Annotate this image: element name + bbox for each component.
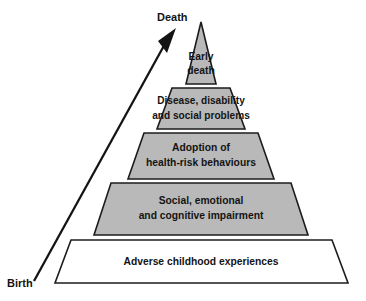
tier-3-label-line-2: health-risk behaviours	[146, 157, 256, 168]
pyramid-tier-4: Social, emotional and cognitive impairme…	[94, 183, 308, 235]
birth-label: Birth	[7, 277, 33, 289]
tier-2-shape	[157, 88, 245, 129]
pyramid-tier-1: Early death	[186, 22, 216, 84]
tier-3-label-line-1: Adoption of	[172, 142, 230, 153]
pyramid-tier-2: Disease, disability and social problems	[152, 88, 250, 129]
death-label: Death	[157, 11, 188, 23]
tier-2-label-line-2: and social problems	[152, 110, 250, 121]
pyramid-tier-base: Adverse childhood experiences	[55, 240, 348, 283]
pyramid-graphic: Adverse childhood experiences Social, em…	[0, 0, 366, 301]
pyramid-tier-3: Adoption of health-risk behaviours	[128, 133, 274, 179]
pyramid-diagram: Adverse childhood experiences Social, em…	[0, 0, 366, 301]
tier-4-label-line-1: Social, emotional	[159, 195, 244, 206]
tier-1-label-line-2: death	[187, 65, 214, 76]
tier-base-label: Adverse childhood experiences	[123, 256, 278, 267]
tier-4-label-line-2: and cognitive impairment	[139, 210, 264, 221]
tier-1-label-line-1: Early	[188, 51, 213, 62]
tier-2-label-line-1: Disease, disability	[157, 95, 245, 106]
